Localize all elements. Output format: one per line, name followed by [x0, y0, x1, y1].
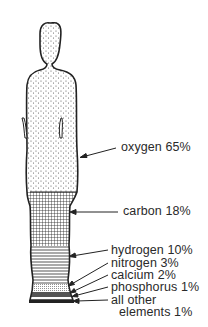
label-carbon: carbon 18% — [123, 205, 191, 218]
feet-base — [29, 300, 74, 303]
right-arm-gap — [59, 118, 62, 138]
nitrogen-region — [20, 272, 90, 284]
label-other-line2: elements 1% — [119, 306, 192, 319]
body-composition-figure — [0, 0, 208, 327]
body-silhouette — [20, 15, 90, 303]
oxygen-region — [20, 15, 90, 192]
label-oxygen: oxygen 65% — [121, 141, 191, 154]
